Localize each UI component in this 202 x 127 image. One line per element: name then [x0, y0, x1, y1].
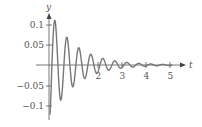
y-tick-label: −0.1: [22, 101, 44, 111]
x-tick-label: 3: [120, 71, 126, 81]
chart: t y 2 3 4 5 0.1 0.05 −0.05 −0.1: [0, 0, 202, 127]
data-curve: [50, 20, 172, 114]
y-axis-label: y: [45, 2, 52, 12]
y-tick-label: 0.1: [30, 20, 44, 30]
x-axis-label: t: [189, 60, 193, 70]
y-ticks: 0.1 0.05 −0.05 −0.1: [16, 20, 52, 111]
x-tick-label: 5: [168, 71, 174, 81]
y-tick-label: −0.05: [16, 81, 44, 91]
x-axis-arrow-icon: [180, 63, 186, 68]
y-tick-label: 0.05: [24, 40, 44, 50]
x-tick-label: 4: [144, 71, 150, 81]
y-axis-arrow-icon: [47, 13, 52, 19]
